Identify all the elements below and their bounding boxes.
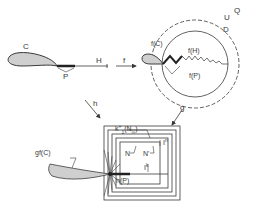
label-k-nested: k+1(N∞) — [115, 124, 138, 135]
curve-gfc — [49, 164, 110, 179]
diagram-canvas: C P H f Q U D f(C) f(H) f(P) h g gf(C) h… — [0, 0, 260, 219]
label-p: P — [63, 73, 68, 81]
label-arrow-g: g — [180, 104, 184, 112]
label-c: C — [23, 43, 29, 51]
segment-fp — [163, 56, 182, 64]
label-u: U — [224, 14, 230, 22]
label-arrow-f: f — [123, 57, 125, 65]
ray-fh — [182, 56, 228, 64]
solid-circle-d — [162, 31, 228, 97]
label-gfc: gf(C) — [35, 149, 51, 156]
label-interval-k: Ik — [144, 163, 148, 171]
nested-squares — [104, 126, 180, 200]
label-d: D — [223, 26, 229, 34]
label-fc: f(C) — [151, 40, 163, 47]
curve-c — [8, 53, 57, 66]
label-fp: f(P) — [189, 72, 200, 79]
label-interval-n: In — [163, 138, 168, 146]
curve-fc — [142, 54, 163, 64]
arrow-g — [172, 110, 182, 125]
label-hp: h(P) — [116, 177, 129, 184]
label-arrow-h: h — [93, 100, 97, 108]
label-h: H — [96, 57, 102, 65]
diagram-svg — [0, 0, 260, 219]
label-n-prime: N' — [143, 150, 149, 157]
label-fh: f(H) — [188, 47, 200, 54]
label-q: Q — [234, 7, 240, 15]
label-n: N — [125, 150, 130, 157]
